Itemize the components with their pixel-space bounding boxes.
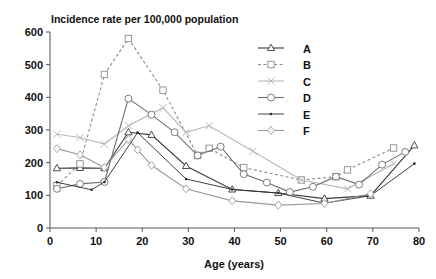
data-point-marker [249, 148, 256, 155]
data-point-marker [194, 152, 201, 159]
axis-titles-group: Age (years) [204, 258, 264, 270]
axes-group: 010020030040050060001020304050607080 [25, 26, 425, 247]
data-point-marker [402, 148, 409, 155]
data-point-marker [229, 197, 236, 205]
x-tick-label: 60 [321, 235, 333, 247]
data-point-marker [411, 142, 418, 148]
series-d [53, 95, 408, 195]
x-tick-label: 10 [90, 235, 102, 247]
y-tick-label: 600 [25, 26, 43, 38]
x-axis-title: Age (years) [204, 258, 264, 270]
legend-label: E [303, 109, 310, 121]
y-tick-label: 0 [37, 222, 43, 234]
data-point-marker [332, 173, 339, 180]
data-point-marker [277, 192, 280, 195]
x-tick-label: 20 [136, 235, 148, 247]
series-line [57, 132, 414, 198]
data-point-marker [270, 113, 273, 116]
data-point-marker [240, 171, 247, 178]
data-point-marker [54, 145, 61, 153]
data-point-marker [185, 178, 188, 181]
series-line [57, 108, 394, 189]
series-group [53, 35, 418, 209]
data-point-marker [268, 94, 275, 101]
data-point-marker [159, 104, 166, 111]
chart-title-group: Incidence rate per 100,000 population [51, 13, 238, 25]
data-point-marker [77, 161, 83, 167]
data-point-marker [267, 44, 274, 50]
legend-group: ABCDEF [258, 43, 311, 138]
data-point-marker [90, 188, 93, 191]
data-point-marker [263, 179, 270, 186]
y-tick-label: 200 [25, 157, 43, 169]
incidence-rate-line-chart: Incidence rate per 100,000 population 01… [0, 0, 436, 279]
legend-label: F [303, 125, 310, 137]
x-tick-label: 50 [275, 235, 287, 247]
legend-label: D [303, 92, 311, 104]
data-point-marker [101, 140, 108, 147]
legend-entry-a[interactable]: A [258, 43, 311, 55]
data-point-marker [136, 131, 139, 134]
data-point-marker [268, 61, 274, 67]
data-point-marker [344, 167, 350, 173]
data-point-marker [101, 71, 107, 77]
data-point-marker [103, 181, 106, 184]
legend-label: B [303, 59, 311, 71]
data-point-marker [125, 128, 132, 134]
chart-title: Incidence rate per 100,000 population [51, 13, 238, 25]
data-point-marker [171, 129, 178, 136]
data-point-marker [77, 151, 84, 159]
data-point-marker [309, 183, 316, 190]
legend-label: A [303, 43, 311, 55]
chart-container: Incidence rate per 100,000 population 01… [0, 0, 436, 279]
legend-entry-f[interactable]: F [258, 125, 310, 137]
x-tick-label: 40 [228, 235, 240, 247]
y-tick-label: 100 [25, 189, 43, 201]
data-point-marker [390, 145, 396, 151]
data-point-marker [125, 35, 131, 41]
data-point-marker [356, 181, 363, 188]
y-tick-label: 500 [25, 59, 43, 71]
x-tick-label: 80 [413, 235, 425, 247]
data-point-marker [231, 188, 234, 191]
data-point-marker [217, 143, 224, 150]
y-tick-label: 400 [25, 91, 43, 103]
y-tick-label: 300 [25, 124, 43, 136]
data-point-marker [379, 161, 386, 168]
legend-entry-d[interactable]: D [258, 92, 311, 104]
data-point-marker [390, 160, 397, 167]
legend-label: C [303, 76, 311, 88]
legend-entry-b[interactable]: B [258, 59, 311, 71]
series-line [57, 133, 414, 204]
series-line [57, 99, 405, 192]
legend-entry-c[interactable]: C [258, 76, 311, 88]
legend-entry-e[interactable]: E [258, 109, 310, 121]
data-point-marker [56, 181, 59, 184]
data-point-marker [53, 185, 60, 192]
data-point-marker [182, 129, 189, 136]
x-tick-label: 30 [182, 235, 194, 247]
data-point-marker [183, 185, 190, 193]
data-point-marker [286, 189, 293, 196]
data-point-marker [53, 164, 60, 170]
data-point-marker [125, 95, 132, 102]
data-point-marker [241, 164, 247, 170]
x-tick-label: 70 [367, 235, 379, 247]
data-point-marker [160, 87, 166, 93]
series-e [56, 131, 416, 204]
data-point-marker [268, 127, 275, 135]
data-point-marker [275, 201, 282, 209]
x-tick-label: 0 [47, 235, 53, 247]
data-point-marker [148, 111, 155, 118]
data-point-marker [413, 162, 416, 165]
data-point-marker [206, 122, 213, 129]
